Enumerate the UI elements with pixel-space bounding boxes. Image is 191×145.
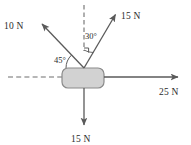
angle-label-45: 45° — [54, 55, 66, 65]
force-label-15n-up-right: 15 N — [121, 11, 141, 21]
force-label-10n: 10 N — [4, 21, 24, 31]
force-arrow-15n-up-right — [84, 15, 116, 69]
angle-arc-45 — [66, 55, 71, 68]
force-diagram: 10 N 15 N 25 N 15 N 45° 30° — [0, 0, 191, 145]
angle-label-30: 30° — [85, 31, 97, 41]
block-body — [62, 68, 104, 88]
force-diagram-canvas: 10 N 15 N 25 N 15 N 45° 30° — [0, 0, 191, 145]
force-label-25n: 25 N — [159, 87, 179, 97]
force-label-15n-down: 15 N — [71, 134, 91, 144]
